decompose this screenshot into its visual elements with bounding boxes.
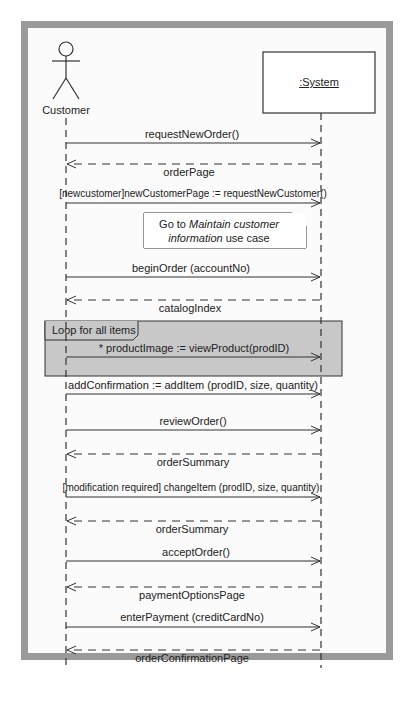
message-label: reviewOrder() [159, 415, 226, 427]
system-label: :System [299, 76, 339, 88]
message-label: acceptOrder() [162, 546, 230, 558]
note-suffix: use case [223, 232, 270, 244]
loop-label: Loop for all items [52, 324, 136, 336]
message-label: [newcustomer]newCustomerPage := requestN… [59, 188, 327, 199]
message-label: [modification required] changeItem (prod… [63, 482, 320, 493]
message-label: orderSummary [157, 456, 230, 468]
message-label: * productImage := viewProduct(prodID) [99, 342, 289, 354]
message-label: catalogIndex [159, 302, 221, 314]
note-italic-2: information [168, 232, 222, 244]
customer-actor-label: Customer [42, 104, 90, 116]
message-label: orderSummary [156, 523, 229, 535]
customer-actor-icon [52, 42, 80, 99]
message-label: orderConfirmationPage [135, 652, 249, 664]
note-italic-1: Maintain customer [189, 218, 279, 230]
note-prefix: Go to [159, 218, 189, 230]
message-label: enterPayment (creditCardNo) [120, 611, 264, 623]
message-label: addConfirmation := addItem (prodID, size… [68, 379, 318, 391]
message-label: orderPage [163, 166, 214, 178]
message-label: beginOrder (accountNo) [132, 262, 250, 274]
message-label: paymentOptionsPage [139, 589, 245, 601]
message-label: requestNewOrder() [145, 128, 239, 140]
note-maintain-customer: Go to Maintain customer information use … [144, 213, 306, 248]
